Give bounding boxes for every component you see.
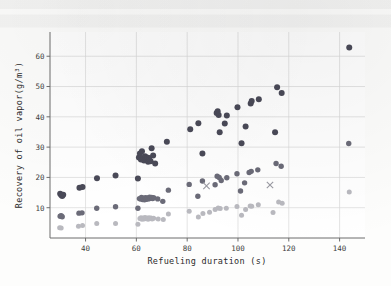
data-point bbox=[113, 204, 118, 209]
data-point bbox=[187, 126, 193, 132]
y-tick-label: 20 bbox=[35, 173, 45, 182]
data-point bbox=[346, 141, 351, 146]
data-point bbox=[113, 173, 119, 179]
data-point bbox=[200, 211, 205, 216]
data-point bbox=[216, 112, 222, 118]
data-point bbox=[224, 113, 230, 119]
x-tick-label: 80 bbox=[183, 244, 193, 253]
data-point bbox=[79, 210, 84, 215]
chart-canvas: 406080100120140102030405060 Refueling du… bbox=[0, 0, 391, 286]
data-point bbox=[187, 182, 192, 187]
data-point bbox=[152, 160, 158, 166]
data-point bbox=[234, 104, 240, 110]
data-point bbox=[279, 90, 285, 96]
data-point bbox=[195, 193, 200, 198]
data-point bbox=[239, 213, 244, 218]
data-point bbox=[207, 210, 212, 215]
data-point bbox=[238, 188, 243, 193]
data-point bbox=[222, 120, 228, 126]
data-point bbox=[278, 164, 283, 169]
data-point bbox=[166, 212, 171, 217]
x-tick-label: 60 bbox=[132, 244, 142, 253]
data-point bbox=[224, 175, 229, 180]
data-point bbox=[219, 178, 224, 183]
data-point bbox=[280, 201, 285, 206]
data-point bbox=[135, 206, 140, 211]
data-point bbox=[113, 221, 118, 226]
data-point bbox=[135, 176, 141, 182]
data-point bbox=[135, 222, 140, 227]
data-point bbox=[196, 215, 201, 220]
data-point bbox=[156, 216, 161, 221]
data-point bbox=[347, 189, 352, 194]
y-tick-label: 60 bbox=[35, 52, 45, 61]
data-point bbox=[248, 169, 253, 174]
data-point bbox=[243, 124, 249, 130]
data-point bbox=[273, 161, 278, 166]
data-point bbox=[255, 167, 260, 172]
data-point bbox=[151, 216, 156, 221]
data-point bbox=[60, 192, 66, 198]
data-point bbox=[161, 217, 166, 222]
data-point bbox=[239, 140, 245, 146]
data-point bbox=[200, 178, 205, 183]
data-point bbox=[272, 129, 278, 135]
data-point bbox=[212, 182, 217, 187]
y-tick-label: 40 bbox=[35, 113, 45, 122]
data-point bbox=[243, 207, 248, 212]
data-point bbox=[94, 175, 100, 181]
x-tick-label: 40 bbox=[81, 244, 91, 253]
y-tick-label: 10 bbox=[35, 204, 45, 213]
x-tick-label: 140 bbox=[333, 244, 347, 253]
data-point bbox=[249, 98, 255, 104]
data-point bbox=[164, 139, 170, 145]
y-tick-label: 50 bbox=[35, 82, 45, 91]
x-axis-title: Refueling duration (s) bbox=[147, 256, 266, 266]
data-point bbox=[256, 202, 261, 207]
data-point bbox=[187, 209, 192, 214]
data-point bbox=[234, 171, 239, 176]
data-point bbox=[271, 210, 276, 215]
data-point bbox=[155, 196, 160, 201]
data-point bbox=[234, 204, 239, 209]
data-point bbox=[346, 44, 352, 50]
data-point bbox=[149, 145, 155, 151]
data-point bbox=[59, 214, 64, 219]
data-point bbox=[94, 221, 99, 226]
x-tick-label: 120 bbox=[282, 244, 296, 253]
x-tick-label: 100 bbox=[231, 244, 245, 253]
data-point bbox=[195, 120, 201, 126]
y-axis-title: Recovery of oil vapor(g/m³) bbox=[14, 62, 24, 208]
data-point bbox=[80, 184, 86, 190]
data-point bbox=[217, 129, 223, 135]
data-point bbox=[80, 223, 85, 228]
data-point bbox=[160, 199, 165, 204]
data-point bbox=[242, 180, 247, 185]
data-point bbox=[274, 84, 280, 90]
data-point bbox=[249, 204, 254, 209]
scatter-plot-figure: 406080100120140102030405060 Refueling du… bbox=[0, 0, 391, 286]
y-tick-label: 30 bbox=[35, 143, 45, 152]
data-point bbox=[59, 226, 64, 231]
data-point bbox=[150, 153, 156, 159]
data-point bbox=[256, 96, 262, 102]
data-point bbox=[199, 150, 205, 156]
data-point bbox=[224, 206, 229, 211]
data-point bbox=[218, 206, 223, 211]
data-point bbox=[94, 206, 99, 211]
data-point bbox=[166, 187, 171, 192]
